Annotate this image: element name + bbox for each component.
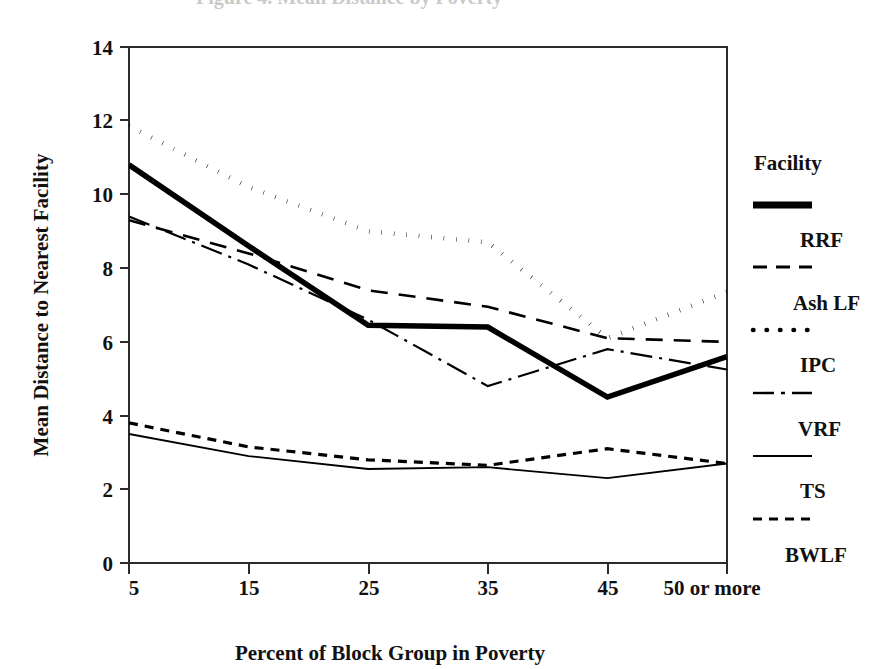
y-axis-title: Mean Distance to Nearest Facility <box>29 153 53 456</box>
y-tick-label: 0 <box>103 552 114 576</box>
legend: Facility RRF Ash LF IPC VRF TS BWLF <box>753 151 860 567</box>
x-tick-label: 5 <box>129 576 140 600</box>
legend-label-ashlf: Ash LF <box>793 291 860 315</box>
legend-label-ts: TS <box>800 479 826 503</box>
data-series-group <box>129 126 727 478</box>
series-line-ts <box>129 434 727 478</box>
x-axis-title: Percent of Block Group in Poverty <box>235 641 546 665</box>
x-tick-label: 25 <box>359 576 380 600</box>
y-tick-label: 2 <box>103 478 114 502</box>
x-tick-label: 15 <box>239 576 260 600</box>
x-axis-tick-labels: 5 15 25 35 45 50 or more <box>129 576 761 600</box>
plot-frame <box>129 47 727 563</box>
y-tick-label: 12 <box>92 109 113 133</box>
series-line-ipc <box>129 126 727 338</box>
x-tick-label: 35 <box>478 576 499 600</box>
y-tick-label: 14 <box>92 36 114 60</box>
series-line-vrf <box>129 217 727 387</box>
legend-label-bwlf: BWLF <box>785 543 847 567</box>
chart-canvas: 14 12 10 8 6 4 2 0 5 15 25 35 45 50 or m… <box>0 0 892 669</box>
y-axis-tick-labels: 14 12 10 8 6 4 2 0 <box>92 36 114 576</box>
x-tick-label: 45 <box>598 576 619 600</box>
y-tick-label: 8 <box>103 257 114 281</box>
y-tick-label: 6 <box>103 331 114 355</box>
x-tick-label: 50 or more <box>663 576 760 600</box>
legend-title: Facility <box>754 151 822 175</box>
y-tick-label: 4 <box>103 405 114 429</box>
x-axis-ticks <box>129 563 727 574</box>
legend-label-rrf: RRF <box>800 228 843 252</box>
series-line-bwlf <box>129 423 727 465</box>
series-line-rrf <box>129 165 727 397</box>
legend-label-vrf: VRF <box>798 417 841 441</box>
y-axis-ticks <box>120 47 129 563</box>
chart-figure: Figure 4. Mean Distance by Poverty 14 12… <box>0 0 892 669</box>
y-tick-label: 10 <box>92 183 113 207</box>
legend-label-ipc: IPC <box>800 353 836 377</box>
